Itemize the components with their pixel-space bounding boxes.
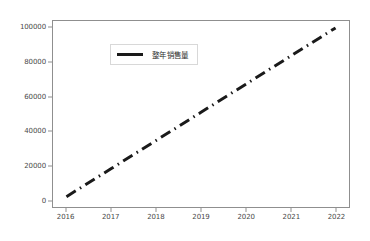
y-tick-label: 0 bbox=[42, 197, 46, 205]
y-tick-label: 60000 bbox=[24, 93, 46, 101]
x-tick-label: 2017 bbox=[102, 213, 119, 221]
legend-label: 整年销售量 bbox=[152, 49, 189, 60]
y-tick-mark bbox=[48, 201, 52, 202]
y-tick-mark bbox=[48, 61, 52, 62]
legend-line-swatch bbox=[117, 53, 143, 56]
y-tick-label: 40000 bbox=[24, 127, 46, 135]
y-axis-tick-labels: 020000400006000080000100000 bbox=[0, 20, 46, 208]
x-tick-mark bbox=[155, 208, 156, 212]
plot-area: 整年销售量 bbox=[52, 20, 350, 208]
x-tick-mark bbox=[246, 208, 247, 212]
chart-figure: 020000400006000080000100000 整年销售量 201620… bbox=[0, 0, 370, 241]
x-tick-label: 2020 bbox=[237, 213, 254, 221]
y-tick-mark bbox=[48, 131, 52, 132]
x-tick-label: 2021 bbox=[283, 213, 300, 221]
x-tick-mark bbox=[201, 208, 202, 212]
line-chart-svg bbox=[53, 21, 349, 207]
x-tick-mark bbox=[336, 208, 337, 212]
y-tick-mark bbox=[48, 96, 52, 97]
y-tick-mark bbox=[48, 166, 52, 167]
y-tick-label: 80000 bbox=[24, 58, 46, 66]
y-tick-label: 20000 bbox=[24, 162, 46, 170]
y-tick-mark bbox=[48, 26, 52, 27]
chart-legend: 整年销售量 bbox=[110, 44, 198, 65]
data-series-group bbox=[66, 28, 335, 197]
x-tick-label: 2019 bbox=[192, 213, 209, 221]
x-tick-mark bbox=[110, 208, 111, 212]
x-tick-mark bbox=[291, 208, 292, 212]
x-tick-label: 2018 bbox=[147, 213, 164, 221]
x-tick-label: 2016 bbox=[57, 213, 74, 221]
x-tick-label: 2022 bbox=[328, 213, 345, 221]
series-line bbox=[66, 28, 335, 197]
x-tick-mark bbox=[65, 208, 66, 212]
y-tick-label: 100000 bbox=[20, 23, 46, 31]
x-axis-tick-labels: 2016201720182019202020212022 bbox=[52, 213, 350, 227]
